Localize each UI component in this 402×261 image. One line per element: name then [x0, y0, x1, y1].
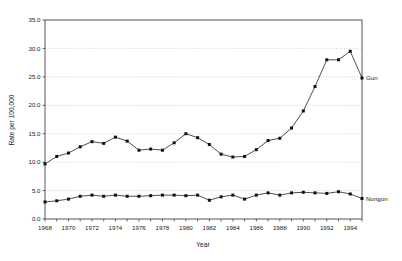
- data-point-marker: [137, 149, 140, 152]
- data-point-marker: [349, 50, 352, 53]
- data-point-marker: [314, 191, 317, 194]
- x-tick-label: 1968: [38, 224, 52, 231]
- y-axis-ticks: 0.05.010.015.020.025.030.035.0: [28, 16, 45, 222]
- series-line-gun: [45, 51, 362, 164]
- chart-container: 0.05.010.015.020.025.030.035.0 196819701…: [0, 0, 402, 261]
- data-point-marker: [267, 191, 270, 194]
- data-point-marker: [44, 200, 47, 203]
- x-tick-label: 1970: [62, 224, 76, 231]
- x-tick-label: 1994: [343, 224, 357, 231]
- data-point-marker: [302, 109, 305, 112]
- x-tick-label: 1986: [249, 224, 263, 231]
- data-point-marker: [196, 194, 199, 197]
- data-point-marker: [196, 136, 199, 139]
- data-point-marker: [161, 149, 164, 152]
- x-tick-label: 1984: [226, 224, 240, 231]
- y-tick-label: 15.0: [28, 130, 41, 137]
- y-tick-label: 35.0: [28, 16, 41, 23]
- data-point-marker: [184, 132, 187, 135]
- data-point-marker: [184, 194, 187, 197]
- x-axis-ticks: 1968197019721974197619781980198219841986…: [38, 219, 362, 231]
- y-tick-label: 25.0: [28, 73, 41, 80]
- data-point-marker: [114, 194, 117, 197]
- y-tick-label: 10.0: [28, 158, 41, 165]
- data-point-marker: [255, 148, 258, 151]
- data-point-marker: [220, 153, 223, 156]
- data-point-marker: [231, 194, 234, 197]
- x-tick-label: 1972: [85, 224, 99, 231]
- data-point-marker: [208, 199, 211, 202]
- data-point-marker: [126, 195, 129, 198]
- plot-frame: [45, 20, 362, 219]
- data-point-marker: [243, 198, 246, 201]
- data-point-marker: [90, 140, 93, 143]
- data-point-marker: [149, 194, 152, 197]
- data-point-marker: [337, 190, 340, 193]
- data-point-marker: [349, 192, 352, 195]
- data-point-marker: [337, 58, 340, 61]
- data-point-marker: [67, 198, 70, 201]
- data-point-marker: [325, 192, 328, 195]
- x-tick-label: 1988: [273, 224, 287, 231]
- plot-area-border: [45, 20, 362, 219]
- data-point-marker: [114, 136, 117, 139]
- x-tick-label: 1980: [179, 224, 193, 231]
- data-point-marker: [278, 194, 281, 197]
- data-point-marker: [161, 194, 164, 197]
- line-chart: 0.05.010.015.020.025.030.035.0 196819701…: [0, 0, 402, 261]
- x-tick-label: 1982: [202, 224, 216, 231]
- data-point-marker: [361, 76, 364, 79]
- data-point-marker: [361, 197, 364, 200]
- x-tick-label: 1976: [132, 224, 146, 231]
- y-tick-label: 0.0: [32, 215, 41, 222]
- x-axis-title: Year: [196, 241, 210, 248]
- data-point-marker: [314, 85, 317, 88]
- data-point-marker: [149, 148, 152, 151]
- data-point-marker: [173, 194, 176, 197]
- y-tick-label: 20.0: [28, 101, 41, 108]
- data-point-marker: [302, 191, 305, 194]
- data-point-marker: [290, 127, 293, 130]
- data-point-marker: [278, 137, 281, 140]
- data-point-marker: [231, 156, 234, 159]
- data-point-marker: [44, 162, 47, 165]
- x-tick-label: 1974: [109, 224, 123, 231]
- data-point-marker: [90, 194, 93, 197]
- data-point-marker: [325, 58, 328, 61]
- data-point-marker: [220, 195, 223, 198]
- data-point-marker: [290, 191, 293, 194]
- data-point-marker: [243, 155, 246, 158]
- y-tick-label: 5.0: [32, 187, 41, 194]
- series-label-nongun: Nongun: [366, 195, 388, 202]
- x-tick-label: 1990: [296, 224, 310, 231]
- data-point-marker: [102, 195, 105, 198]
- data-point-marker: [79, 145, 82, 148]
- series-labels-group: GunNongun: [366, 74, 388, 202]
- gridlines-group: [45, 48, 362, 190]
- data-point-marker: [55, 155, 58, 158]
- data-point-marker: [126, 140, 129, 143]
- data-point-marker: [67, 152, 70, 155]
- data-point-marker: [267, 139, 270, 142]
- y-tick-label: 30.0: [28, 45, 41, 52]
- y-axis-title: Rate per 100,000: [8, 94, 16, 145]
- data-point-marker: [102, 142, 105, 145]
- data-point-marker: [208, 143, 211, 146]
- series-label-gun: Gun: [366, 74, 378, 81]
- data-series-group: [44, 50, 364, 204]
- x-tick-label: 1992: [320, 224, 334, 231]
- data-point-marker: [255, 194, 258, 197]
- data-point-marker: [137, 195, 140, 198]
- data-point-marker: [55, 199, 58, 202]
- x-tick-label: 1978: [156, 224, 170, 231]
- data-point-marker: [79, 195, 82, 198]
- data-point-marker: [173, 141, 176, 144]
